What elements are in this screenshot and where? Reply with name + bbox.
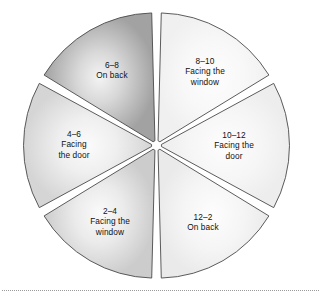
pie-slices-group <box>24 13 290 278</box>
pie-chart-figure: 8–10 Facing the window 10–12 Facing the … <box>0 0 322 301</box>
footer-dotted-rule <box>2 290 319 291</box>
pie-chart-svg <box>0 0 322 301</box>
